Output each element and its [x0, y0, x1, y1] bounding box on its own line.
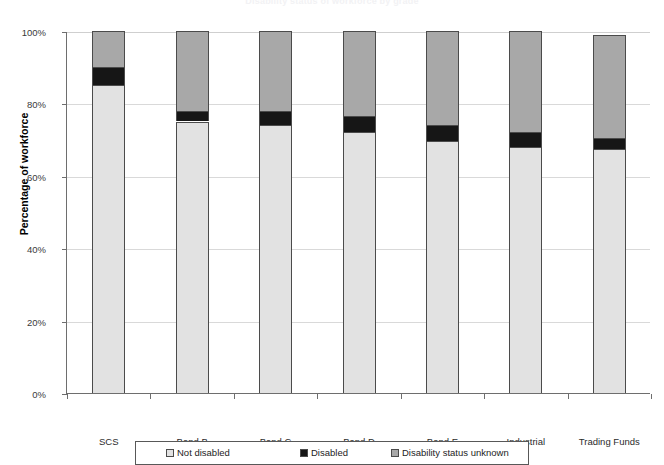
y-tick-mark: [62, 104, 67, 105]
plot-area: 0%20%40%60%80%100% SCSBand BBand CBand D…: [66, 32, 650, 394]
legend-swatch-icon: [166, 449, 174, 457]
bar-stack[interactable]: [259, 31, 292, 393]
bar-stack[interactable]: [509, 31, 542, 393]
bar-segment[interactable]: [426, 125, 459, 141]
x-tick-label: Trading Funds: [579, 436, 640, 447]
legend-label: Disability status unknown: [402, 447, 509, 458]
bar-segment[interactable]: [92, 85, 125, 393]
bar-stack[interactable]: [92, 31, 125, 393]
chart-title: Disability status of workforce by grade: [0, 0, 664, 8]
y-tick-mark: [62, 177, 67, 178]
legend-item[interactable]: Disability status unknown: [391, 447, 509, 458]
bar-segment[interactable]: [426, 141, 459, 393]
x-tick-label: SCS: [99, 436, 119, 447]
bar-segment[interactable]: [593, 149, 626, 393]
bar-stack[interactable]: [593, 31, 626, 393]
x-tick-mark: [234, 394, 235, 399]
bar-segment[interactable]: [509, 31, 542, 132]
x-tick-mark: [67, 394, 68, 399]
bar-segment[interactable]: [343, 116, 376, 132]
bar-segment[interactable]: [343, 132, 376, 393]
legend-label: Not disabled: [177, 447, 230, 458]
bar-segment[interactable]: [426, 31, 459, 125]
y-tick-label: 100%: [0, 27, 46, 38]
chart-figure: Disability status of workforce by grade …: [0, 0, 664, 465]
y-tick-label: 20%: [0, 316, 46, 327]
bar-stack[interactable]: [176, 31, 209, 393]
x-tick-mark: [568, 394, 569, 399]
y-tick-label: 60%: [0, 171, 46, 182]
legend-item[interactable]: Disabled: [300, 447, 348, 458]
bar-segment[interactable]: [509, 147, 542, 393]
y-tick-label: 80%: [0, 99, 46, 110]
x-tick-mark: [401, 394, 402, 399]
y-tick-mark: [62, 32, 67, 33]
x-tick-mark: [317, 394, 318, 399]
bar-segment[interactable]: [259, 125, 292, 393]
bar-segment[interactable]: [509, 132, 542, 146]
y-tick-label: 40%: [0, 244, 46, 255]
bar-segment[interactable]: [259, 111, 292, 125]
bar-segment[interactable]: [176, 122, 209, 394]
bar-segment[interactable]: [343, 31, 376, 116]
bar-segment[interactable]: [259, 31, 292, 111]
x-tick-mark: [484, 394, 485, 399]
bar-segment[interactable]: [92, 31, 125, 67]
y-tick-label: 0%: [0, 389, 46, 400]
bar-segment[interactable]: [593, 138, 626, 149]
bar-segment[interactable]: [176, 111, 209, 122]
bar-segment[interactable]: [593, 35, 626, 138]
y-tick-mark: [62, 322, 67, 323]
legend-label: Disabled: [311, 447, 348, 458]
x-tick-mark: [150, 394, 151, 399]
legend-swatch-icon: [300, 449, 308, 457]
legend-swatch-icon: [391, 449, 399, 457]
bar-segment[interactable]: [176, 31, 209, 111]
chart-legend: Not disabledDisabledDisability status un…: [135, 441, 529, 465]
y-tick-mark: [62, 249, 67, 250]
bar-stack[interactable]: [343, 31, 376, 393]
x-tick-mark: [651, 394, 652, 399]
legend-item[interactable]: Not disabled: [166, 447, 230, 458]
bar-segment[interactable]: [92, 67, 125, 85]
bar-stack[interactable]: [426, 31, 459, 393]
